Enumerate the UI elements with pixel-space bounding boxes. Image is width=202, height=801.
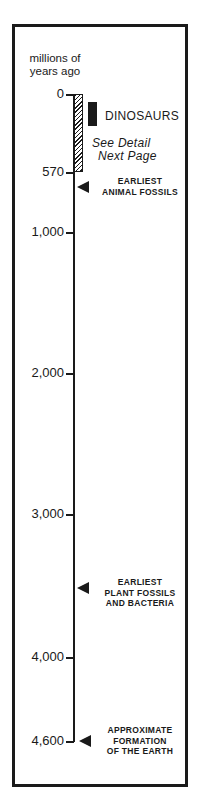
dinosaurs-label: DINOSAURS: [105, 109, 179, 123]
dinosaurs-bar: [88, 102, 97, 126]
event-line: ANIMAL FOSSILS: [95, 187, 185, 198]
arrow-left-icon: [77, 181, 89, 193]
event-animal-fossils: EARLIEST ANIMAL FOSSILS: [95, 176, 185, 197]
detail-note-line2: Next Page: [92, 150, 157, 163]
see-detail-note: See Detail Next Page: [92, 137, 157, 163]
axis-title: millions of years ago: [20, 52, 90, 78]
event-line: APPROXIMATE: [95, 725, 185, 736]
timeline-axis: [73, 95, 75, 742]
arrow-left-icon: [79, 735, 91, 747]
event-plant-fossils: EARLIEST PLANT FOSSILS AND BACTERIA: [95, 577, 185, 609]
arrow-left-icon: [77, 582, 89, 594]
axis-title-line1: millions of: [20, 52, 90, 65]
hatched-range-bar: [74, 94, 83, 172]
tick-mark: [66, 172, 74, 174]
tick-mark: [66, 741, 74, 743]
event-line: OF THE EARTH: [95, 746, 185, 757]
event-earth-formation: APPROXIMATE FORMATION OF THE EARTH: [95, 725, 185, 757]
axis-title-line2: years ago: [20, 65, 90, 78]
tick-label-570: 570: [4, 165, 64, 179]
tick-mark: [66, 657, 74, 659]
tick-mark: [66, 94, 74, 96]
event-line: EARLIEST: [95, 176, 185, 187]
tick-label-2000: 2,000: [4, 366, 64, 380]
tick-label-4000: 4,000: [4, 650, 64, 664]
tick-label-3000: 3,000: [4, 507, 64, 521]
tick-mark: [66, 232, 74, 234]
event-line: AND BACTERIA: [95, 598, 185, 609]
event-line: FORMATION: [95, 736, 185, 747]
tick-label-4600: 4,600: [4, 734, 64, 748]
tick-label-1000: 1,000: [4, 225, 64, 239]
tick-mark: [66, 373, 74, 375]
tick-mark: [66, 514, 74, 516]
event-line: EARLIEST: [95, 577, 185, 588]
event-line: PLANT FOSSILS: [95, 588, 185, 599]
tick-label-0: 0: [4, 87, 64, 101]
